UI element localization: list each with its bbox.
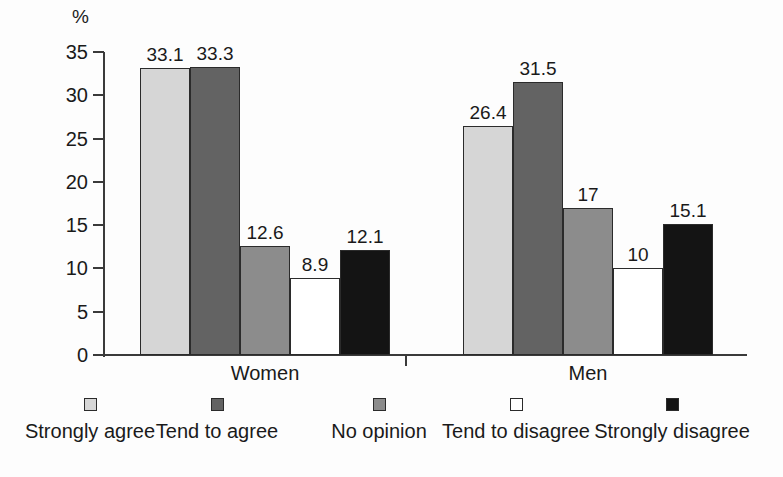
bar-value-label: 12.6 bbox=[228, 223, 302, 242]
bar-chart: % 35302520151050 33.133.312.68.912.126.4… bbox=[0, 0, 783, 477]
bar bbox=[513, 82, 563, 355]
bar-value-label: 8.9 bbox=[278, 255, 352, 274]
plot-area: % 35302520151050 33.133.312.68.912.126.4… bbox=[0, 0, 783, 395]
legend-swatch-no-opinion bbox=[373, 398, 386, 411]
y-axis-unit-label: % bbox=[72, 6, 89, 28]
y-axis-tick-label: 30 bbox=[48, 85, 88, 105]
y-axis-tick-label: 10 bbox=[48, 258, 88, 278]
y-axis-tick-label-text: 25 bbox=[52, 129, 88, 149]
chart-legend: Strongly agreeTend to agreeNo opinionTen… bbox=[0, 398, 783, 477]
y-axis-tick-label-text: 30 bbox=[52, 85, 88, 105]
legend-item-label: Strongly disagree bbox=[562, 420, 782, 442]
y-axis-tick-label-text: 5 bbox=[52, 302, 88, 322]
bar-value-label: 31.5 bbox=[501, 59, 575, 78]
y-axis-tick-label: 20 bbox=[48, 172, 88, 192]
legend-swatch-strongly-agree bbox=[84, 398, 97, 411]
legend-item[interactable]: Strongly disagree bbox=[562, 398, 782, 442]
y-axis-tick bbox=[93, 94, 104, 96]
bar-value-label: 12.1 bbox=[328, 227, 402, 246]
y-axis-tick bbox=[93, 354, 104, 356]
bar bbox=[463, 126, 513, 355]
legend-swatch-tend-to-disagree bbox=[510, 398, 523, 411]
bar bbox=[613, 268, 663, 355]
y-axis-tick-label: 15 bbox=[48, 215, 88, 235]
x-axis-group-label: Men bbox=[423, 362, 753, 384]
y-axis-tick-label-text: 10 bbox=[52, 258, 88, 278]
bar bbox=[563, 208, 613, 355]
y-axis-tick bbox=[93, 138, 104, 140]
bar bbox=[663, 224, 713, 355]
y-axis-tick-label-text: 20 bbox=[52, 172, 88, 192]
legend-swatch-tend-to-agree bbox=[211, 398, 224, 411]
y-axis-tick bbox=[93, 224, 104, 226]
y-axis-tick-label-text: 15 bbox=[52, 215, 88, 235]
bar bbox=[140, 68, 190, 355]
bar-value-label: 33.3 bbox=[178, 44, 252, 63]
y-axis-tick-label-text: 0 bbox=[52, 345, 88, 365]
bar-value-label: 17 bbox=[551, 185, 625, 204]
y-axis-tick bbox=[93, 267, 104, 269]
x-axis-group-label: Women bbox=[100, 362, 430, 384]
y-axis-tick bbox=[93, 181, 104, 183]
y-axis-tick bbox=[93, 51, 104, 53]
y-axis-tick-label: 0 bbox=[48, 345, 88, 365]
y-axis-tick-label: 5 bbox=[48, 302, 88, 322]
bar-value-label: 15.1 bbox=[651, 201, 725, 220]
y-axis-tick-label: 25 bbox=[48, 129, 88, 149]
y-axis-tick-label: 35 bbox=[48, 42, 88, 62]
y-axis-tick bbox=[93, 311, 104, 313]
legend-swatch-strongly-disagree bbox=[666, 398, 679, 411]
bar bbox=[290, 278, 340, 355]
bar bbox=[190, 67, 240, 355]
y-axis-tick-label-text: 35 bbox=[52, 42, 88, 62]
bar-value-label: 26.4 bbox=[451, 103, 525, 122]
bar-value-label: 10 bbox=[601, 245, 675, 264]
